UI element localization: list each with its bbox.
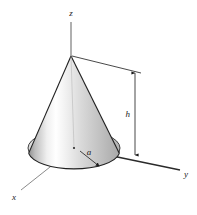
origin-point [73, 147, 75, 149]
radius-label: a [87, 147, 92, 157]
height-label: h [126, 109, 131, 119]
x-axis-label: x [11, 192, 16, 202]
cone-lateral-surface [29, 56, 120, 169]
height-extension-top [72, 56, 141, 73]
cone-diagram-figure: a h z y x [0, 0, 197, 215]
z-axis-label: z [68, 8, 73, 18]
cone-diagram-svg: a h z y x [0, 0, 197, 215]
y-axis-label: y [183, 169, 188, 179]
